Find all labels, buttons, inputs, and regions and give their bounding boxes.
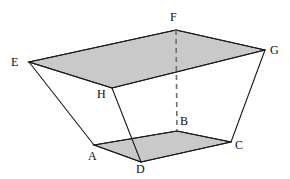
vertex-label-f: F [170, 11, 177, 23]
vertex-label-a: A [88, 150, 97, 162]
vertex-label-h: H [97, 88, 106, 100]
vertex-label-c: C [235, 139, 243, 151]
vertex-label-b: B [180, 115, 188, 127]
figure-canvas [0, 0, 290, 179]
vertex-label-d: D [136, 163, 145, 175]
geometry-figure: ABCDEFGH [0, 0, 290, 179]
vertex-label-g: G [270, 44, 279, 56]
edge-G-C [231, 50, 265, 142]
vertex-label-e: E [11, 56, 18, 68]
